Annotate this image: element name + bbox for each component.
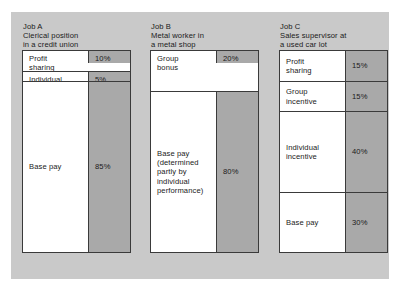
segment-value: 20%	[216, 51, 258, 63]
segment-value-text: 15%	[352, 61, 368, 70]
stacked-bar-3: Profit sharing15%Group incentive15%Indiv…	[279, 50, 388, 253]
bar-segment: Individual incentive5%	[23, 71, 130, 81]
segment-label-text: Profit sharing	[286, 57, 312, 76]
segment-label: Group incentive	[280, 82, 345, 111]
job-description-label: Metal worker in a metal shop	[151, 31, 260, 49]
segment-label-text: Base pay	[29, 162, 61, 171]
segment-label: Group bonus	[151, 51, 216, 73]
stacked-bar-2: Group bonus20%Base pay (determined partl…	[150, 50, 259, 253]
segment-value: 15%	[345, 51, 387, 81]
bar-segment: Group bonus20%	[151, 51, 258, 91]
segment-value: 85%	[88, 82, 130, 252]
segment-label-text: Profit sharing	[29, 54, 55, 72]
stacked-bar-1: Profit sharing10%Individual incentive5%B…	[22, 50, 131, 253]
segment-value-text: 30%	[352, 218, 368, 227]
job-column-2: Job BMetal worker in a metal shopGroup b…	[150, 22, 260, 253]
segment-label: Profit sharing	[23, 51, 88, 73]
segment-value-text: 20%	[223, 54, 239, 63]
job-description-label: Clerical position in a credit union	[23, 31, 132, 49]
bar-segment: Individual incentive40%	[280, 111, 387, 191]
figure-panel: Job AClerical position in a credit union…	[11, 12, 389, 279]
segment-label-text: Group incentive	[286, 87, 317, 106]
job-column-3: Job CSales supervisor at a used car lotP…	[279, 22, 389, 253]
segment-label: Base pay (determined partly by individua…	[151, 92, 216, 252]
segment-value: 40%	[345, 112, 387, 191]
segment-value-text: 15%	[352, 92, 368, 101]
job-id-label: Job C	[280, 22, 389, 31]
job-column-1: Job AClerical position in a credit union…	[22, 22, 132, 253]
segment-value: 80%	[216, 92, 258, 252]
segment-label: Individual incentive	[280, 112, 345, 191]
segment-label-text: Base pay (determined partly by individua…	[157, 149, 203, 196]
job-heading-3: Job CSales supervisor at a used car lot	[280, 22, 389, 50]
bar-segment: Base pay30%	[280, 192, 387, 252]
segment-value: 15%	[345, 82, 387, 111]
segment-label-text: Individual incentive	[286, 143, 319, 162]
segment-value-text: 10%	[95, 54, 111, 63]
segment-label: Base pay	[23, 82, 88, 252]
segment-value-text: 40%	[352, 147, 368, 156]
segment-label: Base pay	[280, 193, 345, 252]
segment-value-text: 85%	[95, 162, 111, 171]
segment-label-text: Group bonus	[157, 54, 179, 72]
bar-segment: Base pay (determined partly by individua…	[151, 91, 258, 252]
job-heading-2: Job BMetal worker in a metal shop	[151, 22, 260, 50]
segment-label-text: Base pay	[286, 218, 318, 227]
segment-value: 10%	[88, 51, 130, 63]
job-id-label: Job A	[23, 22, 132, 31]
segment-label: Profit sharing	[280, 51, 345, 81]
bar-segment: Base pay85%	[23, 81, 130, 252]
bar-segment: Profit sharing10%	[23, 51, 130, 71]
bar-segment: Profit sharing15%	[280, 51, 387, 81]
segment-value: 30%	[345, 193, 387, 252]
job-heading-1: Job AClerical position in a credit union	[23, 22, 132, 50]
bar-segment: Group incentive15%	[280, 81, 387, 111]
job-description-label: Sales supervisor at a used car lot	[280, 31, 389, 49]
segment-value-text: 80%	[223, 167, 239, 176]
job-id-label: Job B	[151, 22, 260, 31]
